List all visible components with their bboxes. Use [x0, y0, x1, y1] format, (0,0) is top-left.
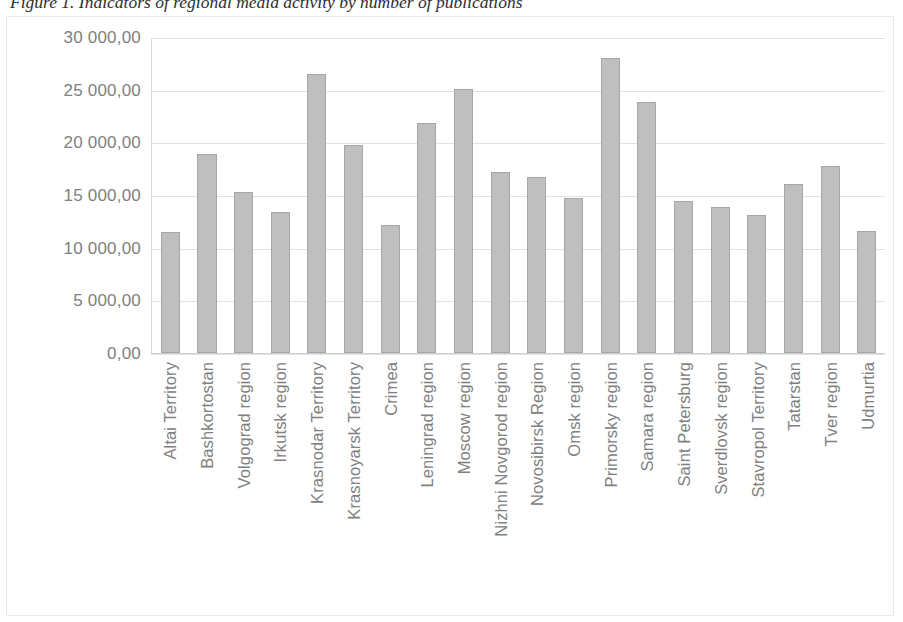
y-axis-tick-label: 30 000,00	[9, 28, 141, 48]
bar-chart: 30 000,0025 000,0020 000,0015 000,0010 0…	[7, 17, 893, 615]
bar[interactable]	[784, 184, 803, 353]
bar[interactable]	[344, 145, 363, 353]
y-axis-tick-label: 25 000,00	[9, 81, 141, 101]
x-label-slot: Krasnodar Territory	[299, 356, 336, 606]
bar[interactable]	[564, 198, 583, 353]
x-axis-category-label: Bashkortostan	[198, 362, 217, 469]
x-axis-line	[151, 353, 885, 354]
x-label-slot: Altai Territory	[152, 356, 189, 606]
x-axis-category-label: Tver region	[822, 362, 841, 447]
bar[interactable]	[197, 154, 216, 354]
bar-series	[152, 38, 885, 353]
bar-slot	[555, 38, 592, 353]
bar-slot	[775, 38, 812, 353]
bar-slot	[519, 38, 556, 353]
bar-slot	[812, 38, 849, 353]
x-axis-category-label: Crimea	[381, 362, 400, 416]
bar[interactable]	[674, 201, 693, 353]
x-label-slot: Saint Petersburg	[666, 356, 703, 606]
y-axis-tick-label: 20 000,00	[9, 133, 141, 153]
bar-slot	[592, 38, 629, 353]
x-axis-category-label: Udmurtia	[858, 362, 877, 430]
x-axis-category-label: Altai Territory	[161, 362, 180, 459]
y-axis-tick-label: 15 000,00	[9, 186, 141, 206]
bar-slot	[665, 38, 702, 353]
x-axis-category-label: Krasnoyarsk Territory	[344, 362, 363, 520]
x-label-slot: Leningrad region	[409, 356, 446, 606]
bar-slot	[629, 38, 666, 353]
bar-slot	[189, 38, 226, 353]
x-label-slot: Krasnoyarsk Territory	[336, 356, 373, 606]
bar-slot	[848, 38, 885, 353]
x-axis-category-label: Primorsky region	[601, 362, 620, 487]
x-label-slot: Novosibirsk Region	[519, 356, 556, 606]
x-axis-category-label: Sverdlovsk region	[711, 362, 730, 495]
x-label-slot: Udmurtia	[849, 356, 886, 606]
bar[interactable]	[601, 58, 620, 353]
x-label-slot: Volgograd region	[225, 356, 262, 606]
bar[interactable]	[417, 123, 436, 353]
x-label-slot: Bashkortostan	[189, 356, 226, 606]
x-axis-category-label: Saint Petersburg	[675, 362, 694, 487]
y-axis-tick-label: 0,00	[9, 344, 141, 364]
x-axis-category-label: Irkutsk region	[271, 362, 290, 462]
chart-frame: 30 000,0025 000,0020 000,0015 000,0010 0…	[6, 16, 894, 616]
figure-page: Figure 1. Indicators of regional media a…	[0, 0, 903, 622]
x-label-slot: Stavropol Territory	[739, 356, 776, 606]
x-axis-category-label: Novosibirsk Region	[528, 362, 547, 506]
x-axis-category-label: Stavropol Territory	[748, 362, 767, 497]
bar-slot	[372, 38, 409, 353]
bar-slot	[739, 38, 776, 353]
bar[interactable]	[857, 231, 876, 353]
x-label-slot: Moscow region	[446, 356, 483, 606]
x-axis-category-label: Samara region	[638, 362, 657, 472]
x-label-slot: Samara region	[629, 356, 666, 606]
bar-slot	[482, 38, 519, 353]
x-label-slot: Sverdlovsk region	[703, 356, 740, 606]
bar-slot	[225, 38, 262, 353]
bar-slot	[445, 38, 482, 353]
bar[interactable]	[527, 177, 546, 353]
bar[interactable]	[821, 166, 840, 353]
x-label-slot: Primorsky region	[592, 356, 629, 606]
plot-area: 30 000,0025 000,0020 000,0015 000,0010 0…	[151, 38, 885, 354]
gridline	[151, 354, 885, 355]
bar[interactable]	[711, 207, 730, 353]
bar[interactable]	[491, 172, 510, 353]
x-axis-category-label: Omsk region	[565, 362, 584, 457]
bar[interactable]	[454, 89, 473, 353]
bar-slot	[299, 38, 336, 353]
bar-slot	[152, 38, 189, 353]
x-axis-category-label: Moscow region	[454, 362, 473, 474]
x-axis-category-labels: Altai TerritoryBashkortostanVolgograd re…	[152, 356, 886, 606]
bar[interactable]	[234, 192, 253, 353]
bar-slot	[262, 38, 299, 353]
x-axis-category-label: Leningrad region	[418, 362, 437, 487]
x-label-slot: Tver region	[813, 356, 850, 606]
bar[interactable]	[637, 102, 656, 353]
bar[interactable]	[307, 74, 326, 353]
bar-slot	[702, 38, 739, 353]
x-label-slot: Irkutsk region	[262, 356, 299, 606]
x-axis-category-label: Nizhni Novgorod region	[491, 362, 510, 537]
x-label-slot: Omsk region	[556, 356, 593, 606]
bar-slot	[335, 38, 372, 353]
bar[interactable]	[271, 212, 290, 353]
x-axis-category-label: Tatarstan	[785, 362, 804, 431]
x-axis-category-label: Volgograd region	[234, 362, 253, 488]
x-label-slot: Crimea	[372, 356, 409, 606]
x-label-slot: Tatarstan	[776, 356, 813, 606]
bar[interactable]	[161, 232, 180, 353]
x-label-slot: Nizhni Novgorod region	[482, 356, 519, 606]
y-axis-tick-label: 5 000,00	[9, 291, 141, 311]
x-axis-category-label: Krasnodar Territory	[308, 362, 327, 504]
bar-slot	[409, 38, 446, 353]
figure-caption: Figure 1. Indicators of regional media a…	[10, 0, 890, 13]
y-axis-tick-label: 10 000,00	[9, 239, 141, 259]
bar[interactable]	[381, 225, 400, 353]
bar[interactable]	[747, 215, 766, 353]
